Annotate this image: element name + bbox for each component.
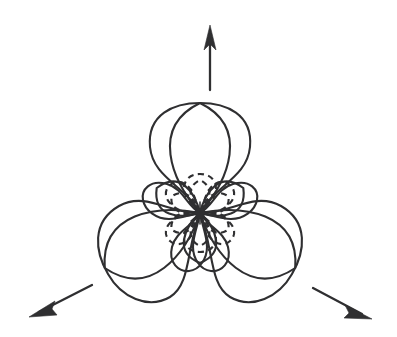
arrow-down-right [313,288,372,319]
arrow-down-left-head [29,301,57,317]
arrow-up [204,25,216,90]
origin-marker [188,202,212,224]
major-lobe-90 [170,103,230,213]
origin-dot [195,208,205,218]
figure-container [0,0,397,337]
minor-lobe-bottom-mirror [171,213,207,271]
arrow-down-right-head [344,305,372,319]
polar-pattern-diagram [0,0,397,337]
arrow-down-left [29,285,92,317]
minor-lobe-group [143,183,258,271]
major-lobe-up [150,103,250,213]
minor-lobe-bottom [193,213,229,271]
